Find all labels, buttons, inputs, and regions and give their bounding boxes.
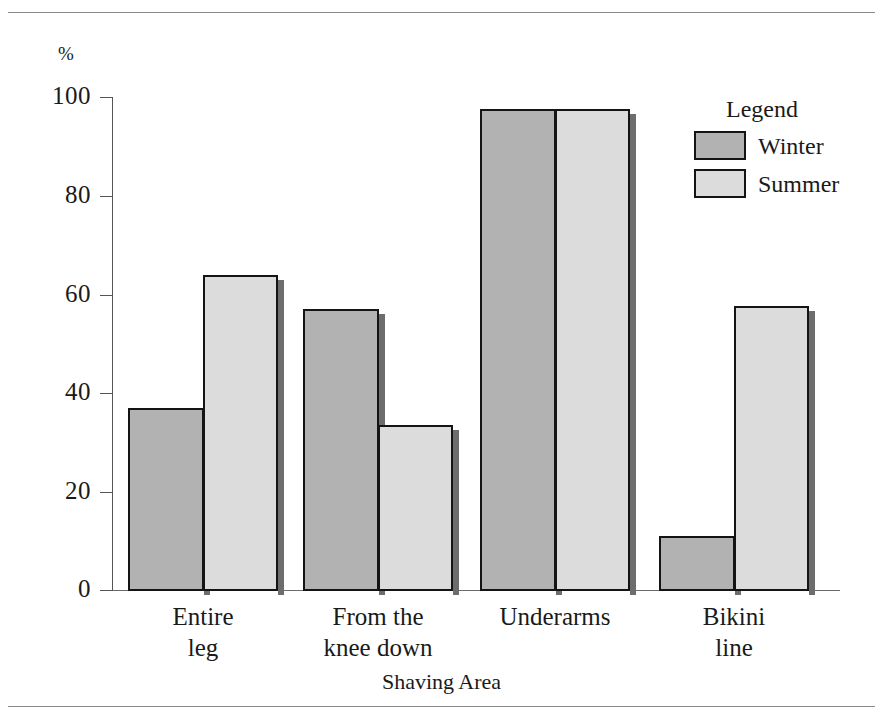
bar-winter-underarms bbox=[480, 109, 556, 591]
x-category-line2: knee down bbox=[303, 632, 453, 663]
x-category-line1: From the bbox=[303, 601, 453, 632]
y-axis-line bbox=[112, 97, 113, 591]
bar-summer-entire-leg bbox=[203, 275, 278, 591]
top-divider-rule bbox=[8, 12, 875, 13]
x-category-entire-leg: Entire leg bbox=[128, 601, 278, 663]
bar-shadow bbox=[453, 430, 459, 595]
legend-entry-winter: Winter bbox=[694, 131, 874, 160]
bar-summer-underarms bbox=[555, 109, 630, 591]
legend-title: Legend bbox=[694, 96, 874, 123]
bar-summer-bikini-line bbox=[734, 306, 809, 591]
bar-shadow bbox=[809, 311, 815, 595]
y-tick-label: 80 bbox=[39, 182, 91, 207]
x-category-underarms: Underarms bbox=[480, 601, 630, 632]
x-category-bikini-line: Bikini line bbox=[659, 601, 809, 663]
x-category-line1: Entire bbox=[128, 601, 278, 632]
legend-label-winter: Winter bbox=[758, 134, 824, 158]
legend-swatch-summer-icon bbox=[694, 169, 746, 198]
x-category-knee-down: From the knee down bbox=[303, 601, 453, 663]
x-category-line1: Underarms bbox=[480, 601, 630, 632]
y-tick-mark bbox=[100, 590, 113, 591]
chart-legend: Legend Winter Summer bbox=[694, 96, 874, 207]
legend-entry-summer: Summer bbox=[694, 169, 874, 198]
bar-winter-bikini-line bbox=[659, 536, 735, 591]
y-tick-mark bbox=[100, 492, 113, 493]
y-tick-mark bbox=[100, 97, 113, 98]
y-tick-label: 60 bbox=[39, 281, 91, 306]
legend-label-summer: Summer bbox=[758, 172, 839, 196]
y-tick-mark bbox=[100, 196, 113, 197]
bar-summer-knee-down bbox=[378, 425, 453, 591]
bar-winter-knee-down bbox=[303, 309, 379, 591]
y-axis-unit-label: % bbox=[58, 43, 74, 65]
y-tick-label: 100 bbox=[39, 83, 91, 108]
x-category-line2: line bbox=[659, 632, 809, 663]
x-category-line1: Bikini bbox=[659, 601, 809, 632]
bar-shadow bbox=[630, 114, 636, 595]
y-tick-label: 0 bbox=[39, 576, 91, 601]
bar-shadow bbox=[278, 280, 284, 595]
y-tick-label: 20 bbox=[39, 478, 91, 503]
legend-swatch-winter-icon bbox=[694, 131, 746, 160]
bottom-divider-rule bbox=[8, 706, 875, 707]
y-tick-mark bbox=[100, 393, 113, 394]
y-tick-mark bbox=[100, 295, 113, 296]
bar-winter-entire-leg bbox=[128, 408, 204, 591]
figure-page: % 100 80 60 40 20 0 bbox=[0, 0, 883, 721]
x-category-line2: leg bbox=[128, 632, 278, 663]
x-axis-title: Shaving Area bbox=[0, 669, 883, 695]
bar-chart: % 100 80 60 40 20 0 bbox=[0, 14, 883, 704]
y-tick-label: 40 bbox=[39, 379, 91, 404]
